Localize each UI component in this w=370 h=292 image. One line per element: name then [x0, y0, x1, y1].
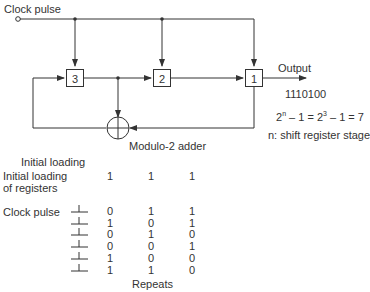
initial-value-reg2: 1: [145, 171, 157, 183]
state-row: 010 011: [104, 206, 116, 276]
initial-loading-label: Initial loadingof registers: [3, 170, 67, 194]
initial-value-reg1: 1: [186, 171, 198, 183]
register-1: 1: [245, 69, 263, 87]
state-column-reg1: 110 100: [186, 206, 198, 276]
output-label: Output: [278, 62, 311, 74]
initial-value-reg3: 1: [104, 171, 116, 183]
output-sequence: 1110100: [285, 88, 326, 100]
table-clock-pulse-label: Clock pulse: [3, 206, 60, 218]
table-title: Initial loading: [21, 156, 85, 168]
register-3: 3: [66, 69, 84, 87]
modulo-2-adder-label: Modulo-2 adder: [129, 140, 206, 152]
clock-pulse-label: Clock pulse: [4, 3, 61, 15]
state-column-reg2: 101 001: [145, 206, 157, 276]
register-2: 2: [153, 69, 171, 87]
stage-note: n: shift register stage: [268, 129, 370, 141]
period-formula: 2n – 1 = 23 – 1 = 7: [276, 108, 364, 123]
repeats-label: Repeats: [132, 278, 173, 290]
